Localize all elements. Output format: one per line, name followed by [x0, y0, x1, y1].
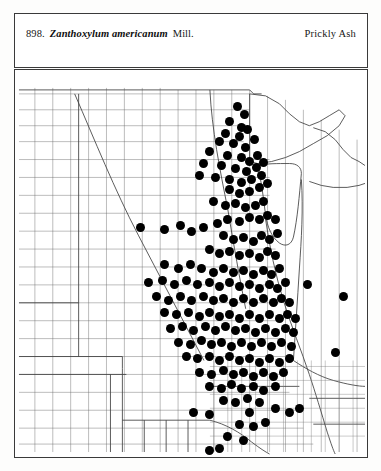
- occurrence-dot: [243, 125, 252, 134]
- occurrence-dot: [259, 197, 268, 206]
- occurrence-dot: [231, 199, 240, 208]
- occurrence-dot: [225, 352, 234, 361]
- occurrence-dot: [205, 245, 214, 254]
- occurrence-dot: [195, 368, 204, 377]
- occurrence-dot: [199, 292, 208, 301]
- occurrence-dot: [271, 404, 280, 413]
- occurrence-dot: [235, 189, 244, 198]
- occurrence-dot: [207, 370, 216, 379]
- occurrence-dot: [245, 213, 254, 222]
- occurrence-dot: [158, 276, 167, 285]
- occurrence-dot: [193, 354, 202, 363]
- occurrence-dot: [255, 314, 264, 323]
- occurrence-dot: [225, 117, 234, 126]
- occurrence-dot: [205, 446, 214, 455]
- occurrence-dot: [231, 164, 240, 173]
- occurrence-dot: [295, 404, 304, 413]
- occurrence-dot: [164, 296, 173, 305]
- occurrence-dot: [273, 284, 282, 293]
- occurrence-dot: [223, 151, 232, 160]
- occurrence-dot: [207, 340, 216, 349]
- occurrence-dot: [205, 147, 214, 156]
- occurrence-dot: [221, 322, 230, 331]
- occurrence-dot: [279, 368, 288, 377]
- occurrence-dot: [241, 203, 250, 212]
- occurrence-dot: [205, 382, 214, 391]
- occurrence-dot: [271, 328, 280, 337]
- occurrence-dot: [217, 338, 226, 347]
- occurrence-dot: [285, 298, 294, 307]
- occurrence-dot: [235, 420, 244, 429]
- occurrence-dot: [237, 178, 246, 187]
- occurrence-dot: [277, 338, 286, 347]
- occurrence-dot: [239, 368, 248, 377]
- occurrence-dot: [275, 264, 284, 273]
- occurrence-dot: [227, 380, 236, 389]
- occurrence-dot: [235, 356, 244, 365]
- occurrence-dot: [247, 342, 256, 351]
- occurrence-dot: [235, 251, 244, 260]
- occurrence-dot: [160, 225, 169, 234]
- occurrence-dot: [287, 342, 296, 351]
- occurrence-dot: [249, 382, 258, 391]
- occurrence-dot: [225, 278, 234, 287]
- occurrence-dot: [205, 278, 214, 287]
- occurrence-dot: [184, 308, 193, 317]
- occurrence-dot: [219, 396, 228, 405]
- occurrence-dot: [223, 215, 232, 224]
- occurrence-dot: [273, 229, 282, 238]
- occurrence-dot: [281, 278, 290, 287]
- occurrence-dot: [215, 356, 224, 365]
- occurrence-dot: [160, 260, 169, 269]
- occurrence-dot: [249, 422, 258, 431]
- occurrence-dot: [205, 352, 214, 361]
- occurrence-dot: [229, 139, 238, 148]
- occurrence-dot: [265, 354, 274, 363]
- occurrence-dot: [182, 352, 191, 361]
- occurrence-dot: [176, 221, 185, 230]
- occurrence-dot: [199, 159, 208, 168]
- occurrence-dot: [239, 266, 248, 275]
- occurrence-dot: [285, 408, 294, 417]
- occurrence-dot: [275, 358, 284, 367]
- occurrence-dot: [219, 366, 228, 375]
- occurrence-dot: [199, 223, 208, 232]
- occurrence-dot: [259, 294, 268, 303]
- occurrence-dot: [174, 264, 183, 273]
- occurrence-dot: [201, 322, 210, 331]
- occurrence-dot: [259, 158, 268, 167]
- occurrence-dot: [271, 382, 280, 391]
- species-header-box: 898. Zanthoxylum americanum Mill. Prickl…: [14, 13, 368, 68]
- occurrence-dot: [205, 410, 214, 419]
- occurrence-dot: [235, 282, 244, 291]
- occurrence-dot: [187, 296, 196, 305]
- occurrence-dot: [240, 110, 249, 119]
- occurrence-dot: [213, 219, 222, 228]
- occurrence-dot: [215, 137, 224, 146]
- occurrence-dot: [186, 340, 195, 349]
- occurrence-dot: [263, 179, 272, 188]
- occurrence-dot: [237, 384, 246, 393]
- occurrence-dot: [229, 298, 238, 307]
- occurrence-dot: [215, 282, 224, 291]
- occurrence-dot: [195, 312, 204, 321]
- occurrence-dot: [211, 326, 220, 335]
- occurrence-dot: [231, 398, 240, 407]
- occurrence-dot: [237, 338, 246, 347]
- occurrence-dot: [245, 187, 254, 196]
- entry-number: 898.: [26, 28, 45, 39]
- occurrence-dot: [245, 354, 254, 363]
- occurrence-dot: [182, 276, 191, 285]
- occurrence-dot: [249, 298, 258, 307]
- occurrence-dot: [229, 370, 238, 379]
- occurrence-dot: [229, 235, 238, 244]
- occurrence-dot: [243, 394, 252, 403]
- occurrence-dot: [225, 175, 234, 184]
- occurrence-dot: [250, 135, 259, 144]
- occurrence-dot: [195, 171, 204, 180]
- occurrence-dot: [331, 348, 340, 357]
- occurrence-dot: [245, 249, 254, 258]
- occurrence-dot: [223, 432, 232, 441]
- occurrence-dot: [271, 215, 280, 224]
- occurrence-dot: [239, 436, 248, 445]
